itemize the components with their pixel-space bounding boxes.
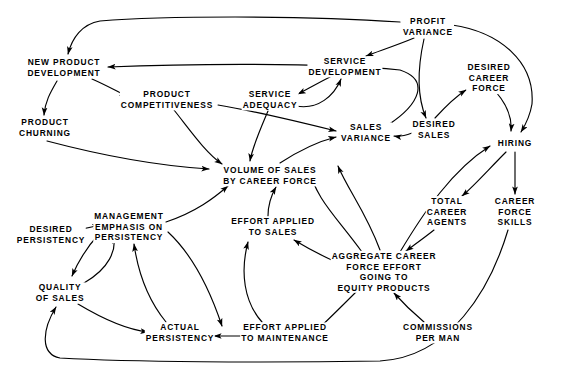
node-total_career_agents: TOTAL CAREER AGENTS: [426, 196, 468, 228]
edge-hiring-to-total-career-agents: [462, 152, 506, 196]
edge-management-emphasis-to-effort-applied-to-maintenance: [168, 232, 222, 326]
edge-aggregate-effort-to-volume-of-sales-2: [338, 166, 380, 250]
edge-profit-variance-to-desired-sales: [419, 39, 426, 118]
node-aggregate_career_force_effort: AGGREGATE CAREER FORCE EFFORT GOING TO E…: [331, 251, 438, 293]
node-desired_persistency: DESIRED PERSISTENCY: [16, 224, 86, 245]
node-new_product_development: NEW PRODUCT DEVELOPMENT: [26, 57, 101, 78]
node-desired_career_force: DESIRED CAREER FORCE: [466, 62, 511, 94]
edge-profit-variance-to-service-development: [366, 38, 414, 56]
node-hiring: HIRING: [497, 138, 533, 149]
node-management_emphasis: MANAGEMENT EMPHASIS ON PERSISTENCY: [93, 211, 164, 243]
edge-service-development-to-service-adequacy: [298, 77, 330, 94]
node-sales_variance: SALES VARIANCE: [340, 122, 392, 143]
edge-total-career-agents-to-aggregate-effort: [406, 230, 434, 251]
edge-actual-persistency-to-management-emphasis: [134, 244, 166, 322]
edge-management-emphasis-to-volume-of-sales: [166, 186, 228, 222]
node-volume_of_sales: VOLUME OF SALES BY CAREER FORCE: [222, 165, 318, 186]
node-product_competitiveness: PRODUCT COMPETITIVENESS: [120, 89, 214, 110]
node-effort_applied_to_sales: EFFORT APPLIED TO SALES: [230, 216, 316, 237]
edge-desired-sales-to-sales-variance: [394, 133, 412, 136]
node-actual_persistency: ACTUAL PERSISTENCY: [145, 322, 215, 343]
edge-product-competitiveness-to-volume-of-sales: [174, 110, 222, 164]
node-service_development: SERVICE DEVELOPMENT: [307, 56, 382, 77]
edge-desired-career-force-to-hiring: [496, 92, 511, 131]
edge-desired-sales-to-desired-career-force: [435, 90, 466, 118]
edge-new-product-development-to-product-churning: [44, 81, 57, 115]
node-commissions_per_man: COMMISSIONS PER MAN: [402, 322, 474, 343]
edge-quality-of-sales-to-actual-persistency: [78, 304, 148, 332]
node-quality_of_sales: QUALITY OF SALES: [35, 282, 86, 303]
node-service_adequacy: SERVICE ADEQUACY: [242, 89, 299, 110]
edge-service-adequacy-to-volume-of-sales: [250, 111, 268, 161]
causal-loop-diagram: NEW PRODUCT DEVELOPMENTPRODUCT CHURNINGP…: [0, 0, 562, 390]
edge-effort-applied-to-maintenance-to-effort-applied-to-sales: [244, 242, 262, 322]
edge-commissions-per-man-to-aggregate-effort: [394, 293, 424, 322]
edge-volume-of-sales-to-sales-variance: [280, 137, 336, 163]
node-career_force_skills: CAREER FORCE SKILLS: [494, 196, 536, 228]
node-desired_sales: DESIRED SALES: [411, 119, 456, 140]
node-profit_variance: PROFIT VARIANCE: [402, 16, 454, 37]
node-effort_applied_to_maintenance: EFFORT APPLIED TO MAINTENANCE: [240, 322, 330, 343]
edge-quality-of-sales-to-management-emphasis: [84, 236, 114, 283]
edge-product-churning-to-volume-of-sales: [47, 141, 209, 169]
node-product_churning: PRODUCT CHURNING: [18, 117, 72, 138]
edge-profit-variance-to-new-product-development: [68, 17, 400, 54]
edge-effort-applied-to-sales-to-volume-of-sales: [268, 187, 276, 216]
